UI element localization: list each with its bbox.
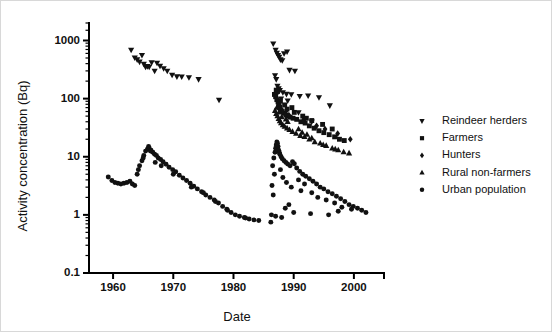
data-point <box>271 192 276 197</box>
data-point <box>201 190 206 195</box>
data-point <box>337 137 342 142</box>
plot-legend: Reindeer herdersFarmersHuntersRural non-… <box>419 114 531 195</box>
data-point <box>289 185 294 190</box>
data-point <box>317 128 322 133</box>
data-point <box>342 138 347 143</box>
data-point <box>326 212 331 217</box>
data-point <box>330 191 335 196</box>
data-point <box>292 110 297 115</box>
data-point <box>256 218 261 223</box>
data-point <box>233 212 238 217</box>
data-point <box>363 210 368 215</box>
x-tick-label: 1970 <box>160 281 186 293</box>
x-tick-label: 1960 <box>100 281 126 293</box>
x-tick-label: 1980 <box>221 281 247 293</box>
data-point <box>141 156 146 161</box>
y-tick-label: 1 <box>74 208 81 220</box>
data-point <box>271 156 276 161</box>
data-point <box>316 95 322 101</box>
data-point <box>132 183 137 188</box>
legend-label: Rural non-farmers <box>442 166 531 178</box>
legend-label: Hunters <box>442 148 481 160</box>
data-point <box>278 99 283 104</box>
data-point <box>334 194 339 199</box>
data-point <box>285 107 290 112</box>
figure-container: 0.1110100100019601970198019902000 Reinde… <box>0 0 552 332</box>
data-point <box>348 136 353 143</box>
data-point <box>279 215 284 220</box>
data-point <box>359 208 364 213</box>
data-point <box>186 75 192 81</box>
x-tick-label: 2000 <box>341 281 367 293</box>
data-point <box>275 89 280 94</box>
legend-label: Farmers <box>442 131 483 143</box>
data-point <box>159 163 164 168</box>
data-point <box>272 172 277 177</box>
scatter-plot: 0.1110100100019601970198019902000 Reinde… <box>1 1 552 332</box>
data-point <box>169 73 175 79</box>
data-point <box>308 211 313 216</box>
y-tick-label: 0.1 <box>64 266 81 278</box>
data-point <box>336 209 341 214</box>
data-point <box>305 94 311 100</box>
y-tick-label: 1000 <box>54 34 80 46</box>
data-point <box>342 199 347 204</box>
data-point <box>135 172 140 177</box>
axes: 0.1110100100019601970198019902000 <box>54 23 384 293</box>
data-point <box>270 163 275 168</box>
data-point <box>195 186 200 191</box>
data-point <box>106 174 111 179</box>
data-point <box>148 149 153 154</box>
data-point <box>243 216 248 221</box>
legend-marker-triangle-up <box>419 170 424 175</box>
data-point <box>153 160 158 165</box>
legend-marker-triangle-down <box>419 119 424 124</box>
data-point <box>294 117 299 122</box>
series-reindeer-herders <box>128 42 333 126</box>
data-point <box>284 180 289 185</box>
data-point <box>355 206 360 211</box>
data-point <box>270 183 275 188</box>
data-points <box>106 42 369 225</box>
data-point <box>295 126 301 132</box>
data-point <box>327 132 332 137</box>
legend-marker-diamond <box>420 153 424 159</box>
data-point <box>152 69 158 75</box>
data-point <box>320 122 325 127</box>
data-point <box>269 212 274 217</box>
data-point <box>280 175 285 180</box>
y-axis-title: Activity concentration (Bq) <box>15 80 30 231</box>
data-point <box>195 77 201 83</box>
series-urban-population <box>106 139 369 224</box>
series-hunters <box>286 112 352 143</box>
y-tick-label: 10 <box>67 150 80 162</box>
data-point <box>338 196 343 201</box>
data-point <box>283 206 288 211</box>
data-point <box>326 189 331 194</box>
y-tick-label: 100 <box>61 92 80 104</box>
data-point <box>268 220 273 225</box>
data-point <box>339 205 344 210</box>
data-point <box>273 77 279 83</box>
data-point <box>220 204 225 209</box>
data-point <box>315 195 320 200</box>
data-point <box>291 210 296 215</box>
data-point <box>286 68 292 74</box>
data-point <box>332 201 337 206</box>
x-axis-title: Date <box>223 309 250 324</box>
x-tick-label: 1990 <box>281 281 307 293</box>
data-point <box>298 188 303 193</box>
data-point <box>171 172 176 177</box>
legend-marker-square <box>420 136 424 140</box>
data-point <box>208 195 213 200</box>
data-point <box>307 123 312 128</box>
data-point <box>349 207 354 212</box>
data-point <box>296 177 301 182</box>
data-point <box>270 42 276 48</box>
data-point <box>292 161 297 166</box>
data-point <box>216 98 222 104</box>
data-point <box>324 198 329 203</box>
data-point <box>309 118 314 123</box>
data-point <box>321 186 326 191</box>
data-point <box>273 214 278 219</box>
